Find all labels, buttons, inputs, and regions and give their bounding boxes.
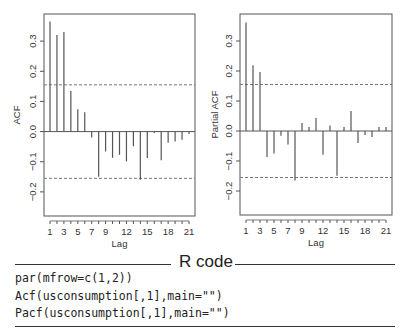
x-tick-label: 21 xyxy=(381,225,392,236)
y-tick-label: 0.2 xyxy=(27,65,38,78)
y-tick-label: 0.3 xyxy=(27,35,38,48)
x-tick-label: 7 xyxy=(89,226,94,237)
code-line: par(mfrow=c(1,2)) xyxy=(15,270,395,288)
code-section-header: R code xyxy=(15,252,395,272)
y-tick-label: 0.0 xyxy=(27,125,38,138)
x-tick-label: 9 xyxy=(299,225,304,236)
code-line: Pacf(usconsumption[,1],main="") xyxy=(15,305,395,323)
x-tick-label: 12 xyxy=(121,226,132,237)
plot-frame xyxy=(240,14,392,215)
y-axis-label: ACF xyxy=(11,105,22,124)
code-line: Acf(usconsumption[,1],main="") xyxy=(15,288,395,306)
x-tick-label: 7 xyxy=(285,225,290,236)
x-axis-label: Lag xyxy=(308,237,324,248)
y-tick-label: −0.1 xyxy=(27,152,38,171)
x-tick-label: 9 xyxy=(103,226,108,237)
y-tick-label: 0.3 xyxy=(223,34,234,47)
x-tick-label: 5 xyxy=(271,225,276,236)
x-axis-label: Lag xyxy=(112,238,128,249)
header-rule-left xyxy=(15,264,171,265)
x-tick-label: 1 xyxy=(243,225,248,236)
x-tick-label: 3 xyxy=(257,225,262,236)
x-tick-label: 1 xyxy=(47,226,52,237)
y-tick-label: −0.2 xyxy=(27,182,38,201)
x-tick-label: 15 xyxy=(142,226,153,237)
header-rule-right xyxy=(235,264,395,265)
acf-pacf-figure: −0.2−0.10.00.10.20.31357912151821LagACF … xyxy=(0,0,411,255)
x-tick-label: 12 xyxy=(318,225,329,236)
x-tick-label: 3 xyxy=(61,226,66,237)
acf-panel: −0.2−0.10.00.10.20.31357912151821LagACF xyxy=(11,14,195,249)
x-tick-label: 15 xyxy=(339,225,350,236)
x-tick-label: 18 xyxy=(163,226,174,237)
x-tick-label: 5 xyxy=(75,226,80,237)
x-tick-label: 21 xyxy=(184,226,195,237)
y-tick-label: 0.1 xyxy=(27,95,38,108)
pacf-panel: −0.2−0.10.00.10.20.31357912151821LagPart… xyxy=(209,14,392,248)
y-tick-label: 0.0 xyxy=(223,124,234,137)
plot-frame xyxy=(44,14,195,216)
y-tick-label: −0.1 xyxy=(223,152,234,171)
code-block: par(mfrow=c(1,2)) Acf(usconsumption[,1],… xyxy=(15,270,395,323)
y-tick-label: 0.1 xyxy=(223,94,234,107)
y-tick-label: −0.2 xyxy=(223,182,234,201)
y-tick-label: 0.2 xyxy=(223,64,234,77)
code-section-bottom-rule xyxy=(15,326,395,327)
x-tick-label: 18 xyxy=(360,225,371,236)
y-axis-label: Partial ACF xyxy=(209,90,220,138)
code-section-title: R code xyxy=(179,252,233,272)
